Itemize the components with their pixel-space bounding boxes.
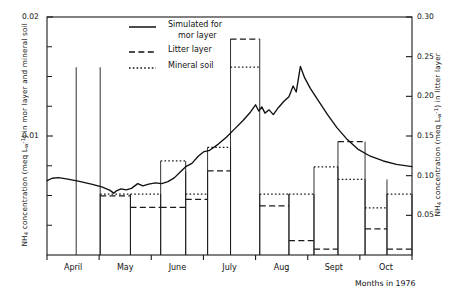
chart-plot (0, 0, 463, 303)
x-axis-month-label-sept: Sept (304, 263, 364, 272)
x-axis-caption: Months in 1976 (355, 279, 415, 288)
y-axis-left-tick-label: 0.01 (22, 131, 39, 140)
x-axis-month-label-oct: Oct (356, 263, 416, 272)
x-axis-month-label-may: May (95, 263, 155, 272)
legend-label-dashed: Litter layer (168, 45, 212, 54)
legend-swatch-dotted (128, 63, 158, 73)
y-axis-right-tick-label: 0.20 (417, 91, 434, 100)
y-axis-right-label-text: NH4 concentration (meq Lw-1) in litter l… (434, 53, 443, 216)
x-axis-month-label-july: July (200, 263, 260, 272)
y-axis-right-tick-label: 0.10 (417, 171, 434, 180)
y-axis-left-tick-label: 0.02 (22, 12, 39, 21)
figure-container: NH4 concentration (meq Lw-1) in mor laye… (0, 0, 463, 303)
y-axis-right-tick-label: 0.15 (417, 131, 434, 140)
y-axis-right-label: NH4 concentration (meq Lw-1) in litter l… (433, 15, 442, 255)
y-axis-right-tick-label: 0.30 (417, 12, 434, 21)
legend-swatch-solid (128, 22, 158, 32)
plot-frame (47, 17, 412, 255)
legend-label-dotted: Mineral soil (168, 61, 214, 70)
legend-swatch-dashed (128, 47, 158, 57)
x-axis-month-label-june: June (147, 263, 207, 272)
y-axis-right-tick-label: 0.05 (417, 210, 434, 219)
y-axis-right-tick-label: 0.25 (417, 52, 434, 61)
simulated-mor-layer-curve (47, 66, 412, 193)
legend-label-solid-line2: mor layer (178, 31, 217, 40)
legend-label-solid: Simulated for (168, 20, 222, 29)
x-axis-month-label-aug: Aug (252, 263, 312, 272)
x-axis-month-label-april: April (43, 263, 103, 272)
